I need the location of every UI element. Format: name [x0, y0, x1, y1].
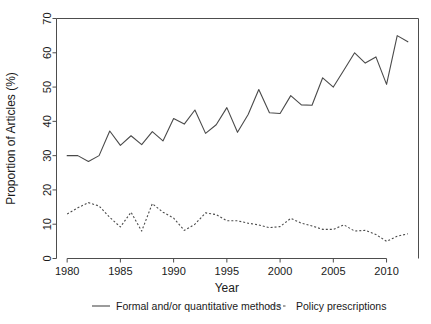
series-line-2 [67, 203, 408, 242]
x-tick-label: 2000 [268, 265, 292, 277]
y-tick-label: 10 [41, 218, 53, 230]
x-tick-label: 1980 [55, 265, 79, 277]
series-line-1 [67, 36, 408, 162]
line-chart: 0102030405060701980198519901995200020052… [0, 0, 431, 324]
chart-legend: Formal and/or quantitative methodsPolicy… [92, 300, 386, 312]
chart-figure: 0102030405060701980198519901995200020052… [0, 0, 431, 324]
y-tick-label: 0 [41, 255, 53, 261]
legend-label-2: Policy prescriptions [296, 300, 386, 312]
x-tick-label: 1995 [215, 265, 239, 277]
y-tick-label: 30 [41, 150, 53, 162]
x-tick-label: 2005 [321, 265, 345, 277]
y-axis-title: Proportion of Articles (%) [4, 72, 18, 205]
x-axis-ticks: 1980198519901995200020052010 [55, 259, 399, 277]
y-axis-ticks: 010203040506070 [41, 12, 56, 261]
y-tick-label: 40 [41, 115, 53, 127]
legend-label-1: Formal and/or quantitative methods [116, 300, 281, 312]
x-tick-label: 1985 [108, 265, 132, 277]
x-tick-label: 1990 [161, 265, 185, 277]
y-tick-label: 20 [41, 184, 53, 196]
y-tick-label: 50 [41, 81, 53, 93]
x-tick-label: 2010 [374, 265, 398, 277]
x-axis-title: Year [215, 281, 239, 295]
y-tick-label: 60 [41, 47, 53, 59]
plot-frame [57, 19, 419, 259]
y-tick-label: 70 [41, 12, 53, 24]
